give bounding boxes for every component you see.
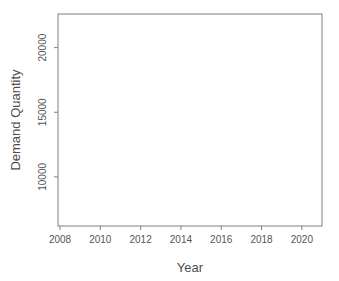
plot-frame — [58, 14, 322, 226]
x-tick-label: 2018 — [250, 234, 273, 245]
x-tick-label: 2012 — [130, 234, 153, 245]
y-tick-label: 10000 — [37, 163, 48, 191]
x-tick-label: 2016 — [210, 234, 233, 245]
y-tick-label: 15000 — [37, 98, 48, 126]
x-tick-label: 2010 — [89, 234, 112, 245]
x-tick-label: 2008 — [49, 234, 72, 245]
demand-forecast-chart: 2008201020122014201620182020 10000150002… — [0, 0, 339, 281]
chart-figure: 2008201020122014201620182020 10000150002… — [0, 0, 339, 281]
y-tick-label: 20000 — [37, 33, 48, 61]
x-tick-label: 2020 — [291, 234, 314, 245]
y-axis-title: Demand Quantity — [8, 69, 23, 171]
x-tick-label: 2014 — [170, 234, 193, 245]
x-axis-title: Year — [177, 260, 204, 275]
